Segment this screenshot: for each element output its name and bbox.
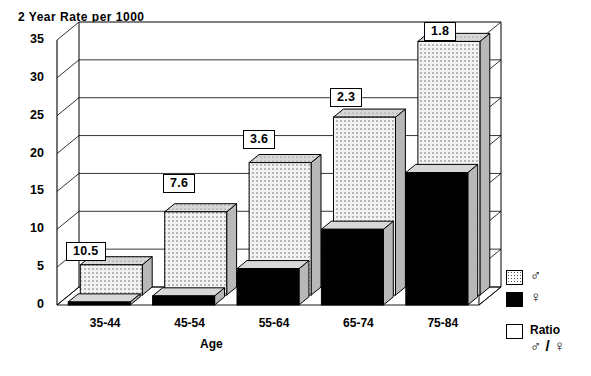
y-tick-5: 5 xyxy=(16,259,44,273)
bar-female-55-64 xyxy=(237,261,309,305)
y-tick-35: 35 xyxy=(16,32,44,46)
legend-item-male: ♂ xyxy=(506,268,588,290)
y-tick-10: 10 xyxy=(16,221,44,235)
chart-container: 2 Year Rate per 1000 05101520253035 35-4… xyxy=(0,0,591,376)
legend-label-male: ♂ xyxy=(530,265,541,284)
bar-male-35-44 xyxy=(80,257,152,295)
chart-legend: ♂ ♀ Ratio ♂ / ♀ xyxy=(506,268,588,356)
legend-item-ratio: Ratio ♂ / ♀ xyxy=(506,322,588,356)
ratio-label-65-74: 2.3 xyxy=(330,88,362,107)
bar-female-45-54 xyxy=(153,288,225,305)
female-swatch-icon xyxy=(506,292,523,307)
y-tick-25: 25 xyxy=(16,108,44,122)
y-tick-20: 20 xyxy=(16,146,44,160)
legend-label-ratio-sub: ♂ / ♀ xyxy=(530,337,565,354)
ratio-swatch-icon xyxy=(506,324,523,339)
bar-female-65-74 xyxy=(321,221,393,305)
male-swatch-icon xyxy=(506,270,523,285)
y-tick-15: 15 xyxy=(16,183,44,197)
ratio-label-55-64: 3.6 xyxy=(243,130,275,149)
legend-item-female: ♀ xyxy=(506,290,588,312)
legend-label-female: ♀ xyxy=(530,287,541,306)
x-tick-35-44: 35-44 xyxy=(60,316,150,330)
ratio-label-45-54: 7.6 xyxy=(163,174,195,193)
x-axis-title: Age xyxy=(200,337,223,351)
ratio-label-35-44: 10.5 xyxy=(66,242,106,261)
y-tick-0: 0 xyxy=(16,297,44,311)
y-tick-30: 30 xyxy=(16,70,44,84)
x-tick-55-64: 55-64 xyxy=(229,316,319,330)
bar-female-35-44 xyxy=(68,294,140,305)
bar-female-75-84 xyxy=(406,164,478,305)
x-tick-65-74: 65-74 xyxy=(313,316,403,330)
ratio-label-75-84: 1.8 xyxy=(424,22,456,41)
x-tick-45-54: 45-54 xyxy=(145,316,235,330)
bar-male-45-54 xyxy=(165,204,237,295)
x-tick-75-84: 75-84 xyxy=(398,316,488,330)
